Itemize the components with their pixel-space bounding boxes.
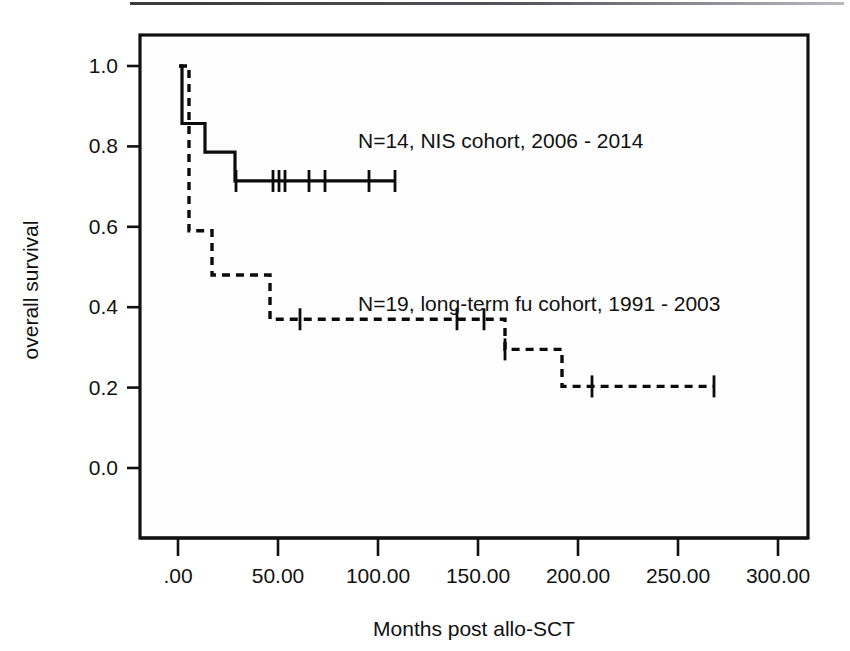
x-tick-label: 200.00 bbox=[546, 564, 610, 587]
figure-page: 0.00.20.40.60.81.0 .0050.00100.00150.002… bbox=[0, 0, 850, 651]
y-tick-label: 0.6 bbox=[89, 215, 118, 238]
y-axis-title: overall survival bbox=[19, 221, 42, 360]
y-tick-label: 0.8 bbox=[89, 134, 118, 157]
y-axis-tick-labels: 0.00.20.40.60.81.0 bbox=[89, 54, 119, 479]
x-tick-label: 300.00 bbox=[746, 564, 810, 587]
x-tick-label: 150.00 bbox=[446, 564, 510, 587]
x-tick-label: 100.00 bbox=[346, 564, 410, 587]
survival-chart: 0.00.20.40.60.81.0 .0050.00100.00150.002… bbox=[0, 0, 850, 651]
x-axis-ticks bbox=[178, 538, 778, 556]
y-tick-label: 0.2 bbox=[89, 376, 118, 399]
x-tick-label: 50.00 bbox=[252, 564, 305, 587]
x-tick-label: .00 bbox=[163, 564, 192, 587]
y-axis-ticks bbox=[127, 66, 140, 468]
y-tick-label: 1.0 bbox=[89, 54, 118, 77]
y-tick-label: 0.0 bbox=[89, 456, 118, 479]
plot-frame bbox=[140, 35, 808, 538]
x-tick-label: 250.00 bbox=[646, 564, 710, 587]
y-tick-label: 0.4 bbox=[89, 295, 119, 318]
x-axis-tick-labels: .0050.00100.00150.00200.00250.00300.00 bbox=[163, 564, 810, 587]
series-annotation-nis-cohort: N=14, NIS cohort, 2006 - 2014 bbox=[358, 129, 644, 152]
series-annotation-longterm-cohort: N=19, long-term fu cohort, 1991 - 2003 bbox=[358, 292, 720, 315]
x-axis-title: Months post allo-SCT bbox=[373, 617, 575, 640]
